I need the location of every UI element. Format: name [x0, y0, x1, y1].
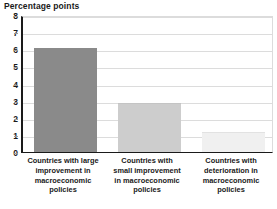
y-tick-mark: [14, 119, 18, 120]
y-tick-mark: [14, 136, 18, 137]
x-axis-category-label: Countries withsmall improvementin macroe…: [105, 156, 189, 206]
y-tick-mark: [14, 50, 18, 51]
bar: [202, 132, 265, 152]
x-axis-label-line: Countries with large: [22, 156, 104, 166]
y-tick-mark: [14, 67, 18, 68]
x-axis-label-line: policies: [190, 185, 272, 195]
x-axis-label-line: deterioration in: [190, 166, 272, 176]
x-axis-label-line: policies: [22, 185, 104, 195]
x-axis-label-line: Countries with: [106, 156, 188, 166]
plot-area: [21, 16, 273, 153]
chart-title: Percentage points: [4, 1, 79, 11]
x-axis-label-line: small improvement: [106, 166, 188, 176]
y-tick-mark: [14, 16, 18, 17]
x-axis: Countries with largeimprovement inmacroe…: [21, 156, 273, 206]
x-axis-label-line: macroeconomic: [190, 176, 272, 186]
x-axis-label-line: Countries with: [190, 156, 272, 166]
bar: [118, 103, 181, 152]
y-tick-mark: [14, 85, 18, 86]
x-axis-label-line: improvement in: [22, 166, 104, 176]
x-axis-label-line: in macroeconomic: [106, 176, 188, 186]
x-axis-category-label: Countries withdeterioration inmacroecono…: [189, 156, 273, 206]
y-tick-mark: [14, 102, 18, 103]
bar-chart: Percentage points 876543210 Countries wi…: [0, 0, 277, 209]
gridline: [23, 17, 272, 18]
gridline: [23, 34, 272, 35]
y-tick-mark: [14, 33, 18, 34]
x-axis-category-label: Countries with largeimprovement inmacroe…: [21, 156, 105, 206]
y-axis: 876543210: [0, 16, 18, 153]
x-axis-label-line: macroeconomic: [22, 176, 104, 186]
y-tick-mark: [14, 153, 18, 154]
x-axis-label-line: policies: [106, 185, 188, 195]
bar: [34, 48, 97, 152]
